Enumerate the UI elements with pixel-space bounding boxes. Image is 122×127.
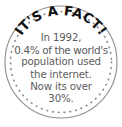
badge-body-line-1: In 1992, xyxy=(0,32,122,44)
badge-body-line-5: Now its over xyxy=(0,81,122,93)
its-a-fact-badge: IT'S A FACT! In 1992, 0.4% of the world'… xyxy=(0,0,122,127)
badge-body-line-3: population used xyxy=(0,56,122,68)
badge-body-line-6: 30%. xyxy=(0,93,122,105)
badge-body-text: In 1992, 0.4% of the world's population … xyxy=(0,32,122,105)
badge-body-line-4: the internet. xyxy=(0,69,122,81)
badge-body-line-2: 0.4% of the world's xyxy=(0,44,122,56)
